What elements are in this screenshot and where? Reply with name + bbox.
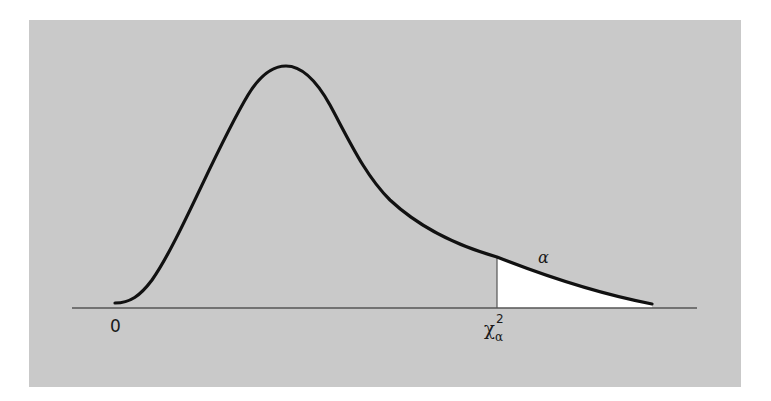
density-curve <box>115 66 652 304</box>
chi-square-diagram <box>0 0 771 401</box>
critical-value-label: χ 2 α <box>484 320 495 338</box>
chi-subscript: α <box>495 331 503 343</box>
origin-label: 0 <box>110 318 121 335</box>
chi-superscript: 2 <box>496 313 504 325</box>
tail-area-label: α <box>538 250 549 266</box>
chi-symbol: χ <box>484 318 495 339</box>
